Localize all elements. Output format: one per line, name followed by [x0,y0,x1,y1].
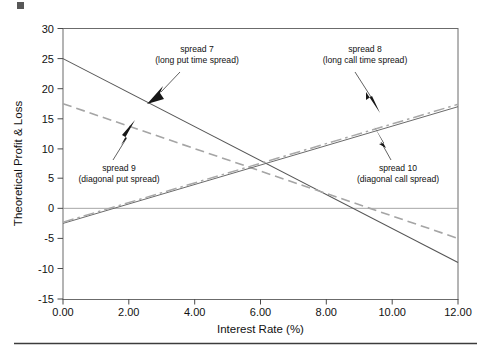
annotation-spread-9-leader [113,139,126,160]
annotation-spread-8-leader [355,72,371,97]
annotation-spread-10: spread 10 (diagonal call spread) [357,126,439,184]
annotation-spread-7-arrowhead [147,86,164,104]
y-axis-ticks [58,29,64,300]
annotation-spread-9-title: spread 9 [102,163,136,173]
y-tick-label: -10 [38,263,54,275]
y-tick-label: 15 [42,113,54,125]
y-tick-label: -15 [38,293,54,305]
x-tick-label: 2.00 [118,306,139,318]
annotation-spread-10-title: spread 10 [379,163,417,173]
annotation-spread-7-title: spread 7 [180,44,214,54]
x-tick-label: 8.00 [316,306,337,318]
x-tick-label: 10.00 [378,306,406,318]
x-tick-labels: 0.00 2.00 4.00 6.00 8.00 10.00 12.00 [52,306,471,318]
x-tick-label: 0.00 [52,306,73,318]
annotation-spread-9: spread 9 (diagonal put spread) [78,120,159,184]
x-tick-label: 6.00 [250,306,271,318]
annotation-spread-9-subtitle: (diagonal put spread) [78,174,159,184]
y-tick-label: -5 [44,232,54,244]
x-axis-title: Interest Rate (%) [217,323,304,335]
annotation-spread-7: spread 7 (long put time spread) [147,44,239,104]
y-tick-label: 20 [42,83,54,95]
annotation-spread-8-subtitle: (long call time spread) [323,55,408,65]
annotation-spread-7-leader [161,72,180,92]
profit-loss-line-chart: 30 25 20 15 10 5 0 -5 -10 -15 0.00 2.00 … [0,0,491,349]
y-tick-label: 10 [42,143,54,155]
x-tick-label: 4.00 [184,306,205,318]
annotation-spread-8-title: spread 8 [348,44,382,54]
annotation-spread-8-arrowhead [366,92,380,113]
y-tick-label: 25 [42,53,54,65]
y-tick-label: 30 [42,23,54,35]
x-tick-label: 12.00 [444,306,472,318]
figure-container: 30 25 20 15 10 5 0 -5 -10 -15 0.00 2.00 … [0,0,491,349]
series-line-spread-7 [63,59,458,263]
y-tick-label: 5 [48,172,54,184]
annotation-spread-7-subtitle: (long put time spread) [155,55,239,65]
y-axis-title: Theoretical Profit & Loss [12,101,24,227]
annotation-spread-10-subtitle: (diagonal call spread) [357,174,439,184]
y-tick-labels: 30 25 20 15 10 5 0 -5 -10 -15 [38,23,54,306]
figure-marker-glyph [17,2,24,9]
y-tick-label: 0 [48,202,54,214]
annotation-spread-8: spread 8 (long call time spread) [323,44,408,113]
